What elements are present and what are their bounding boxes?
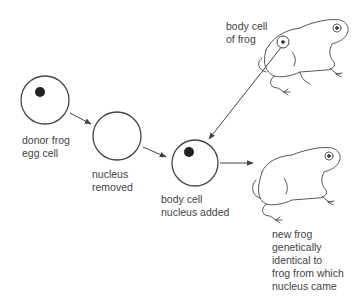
label-nucleus-removed: nucleus removed — [92, 168, 133, 194]
label-donor-egg: donor frog egg cell — [22, 134, 70, 160]
donor-egg-cell — [21, 76, 69, 124]
arrow-removed-to-added — [143, 147, 166, 157]
frog-clone-icon — [253, 147, 341, 223]
label-nucleus-added: body cell nucleus added — [161, 193, 229, 219]
arrow-donor-to-removed — [70, 113, 91, 124]
reconstructed-egg-cell — [172, 140, 218, 186]
nucleus-dot — [35, 87, 45, 97]
frog-adult-icon — [259, 19, 349, 95]
label-new-frog: new frog genetically identical to frog f… — [272, 228, 344, 293]
arrow-bodycell-to-egg — [209, 45, 283, 139]
body-cell-marker — [277, 36, 289, 48]
enucleated-egg-cell — [93, 112, 141, 160]
label-body-cell-of-frog: body cell of frog — [226, 20, 267, 46]
nucleus-dot — [184, 147, 194, 157]
